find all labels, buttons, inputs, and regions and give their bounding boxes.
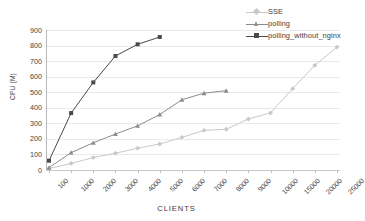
x-axis-tick-label: 10000 [280, 177, 299, 196]
x-axis-tick-label: 1000 [80, 177, 96, 193]
x-axis-tick-label: 15000 [302, 177, 321, 196]
data-point [158, 35, 162, 39]
data-point [91, 80, 95, 84]
x-axis-tick-label: 8000 [235, 177, 251, 193]
data-point [202, 128, 207, 133]
x-axis-tick-label: 7000 [213, 177, 229, 193]
series-line-polling-without-nginx [49, 37, 160, 161]
x-axis-tick-label: 100 [56, 177, 69, 190]
x-axis-tick-label: 2000 [102, 177, 118, 193]
legend-label-polling: polling [268, 19, 290, 29]
series-line-SSE [49, 47, 337, 168]
x-axis-tick-label: 6000 [190, 177, 206, 193]
data-point [69, 111, 73, 115]
data-point [157, 112, 162, 116]
legend-label-polling-without-nginx: polling_without_nginx [268, 31, 341, 41]
data-point [136, 42, 140, 46]
data-point [224, 127, 229, 132]
data-point [47, 159, 51, 163]
legend-item-sse[interactable]: SSE [246, 7, 341, 17]
data-point [113, 54, 117, 58]
y-axis-tick-label: 200 [16, 134, 42, 143]
x-axis-tick-label: 9000 [257, 177, 273, 193]
plot-area: 9008007006005004003002001000 10010002000… [46, 30, 340, 170]
y-axis-tick-label: 500 [16, 88, 42, 97]
data-point [69, 161, 74, 166]
y-axis-tick-label: 400 [16, 103, 42, 112]
y-axis-tick-label: 700 [16, 57, 42, 66]
x-axis-tick-label: 4000 [146, 177, 162, 193]
y-axis-tick-label: 0 [16, 166, 42, 175]
data-point [91, 155, 96, 160]
legend-label-sse: SSE [268, 7, 283, 17]
data-point [180, 135, 185, 140]
y-axis-tick-label: 600 [16, 72, 42, 81]
y-axis-title: CPU (M) [9, 57, 16, 117]
data-point [135, 146, 140, 151]
legend-marker-polling-icon [246, 19, 268, 29]
y-axis-tick-label: 100 [16, 150, 42, 159]
x-axis-tick-label: 25000 [347, 177, 365, 196]
y-axis-tick-label: 900 [16, 26, 42, 35]
legend-marker-sse-icon [246, 7, 268, 17]
data-point [157, 142, 162, 147]
x-axis-tick-label: 20000 [324, 177, 343, 196]
series-line-polling [49, 91, 226, 168]
x-axis-tick-label: 3000 [124, 177, 140, 193]
legend-item-polling[interactable]: polling [246, 19, 341, 29]
data-point [246, 117, 251, 122]
y-axis-tick-label: 800 [16, 41, 42, 50]
legend-item-polling-without-nginx[interactable]: polling_without_nginx [246, 31, 341, 41]
chart-legend: SSE polling polling_without_nginx [246, 7, 341, 41]
y-axis-tick-label: 300 [16, 119, 42, 128]
data-point [113, 151, 118, 156]
series-layer [46, 30, 340, 171]
x-axis-tick-label: 5000 [168, 177, 184, 193]
data-point [135, 123, 140, 127]
x-axis-title: CLIENTS [0, 204, 353, 213]
legend-marker-polling-without-nginx-icon [246, 31, 268, 41]
